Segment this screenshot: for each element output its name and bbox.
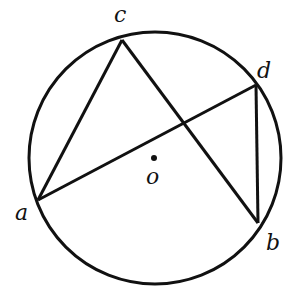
center-point (151, 155, 157, 161)
label-o: o (146, 166, 159, 188)
label-d: d (257, 60, 271, 82)
label-b: b (266, 232, 280, 254)
circle-diagram (0, 0, 301, 292)
segment-ac (38, 40, 122, 200)
segment-cb (122, 40, 258, 223)
segment-db (256, 85, 258, 223)
label-c: c (114, 4, 126, 26)
diagram-canvas: c d a b o (0, 0, 301, 292)
label-a: a (15, 202, 28, 224)
